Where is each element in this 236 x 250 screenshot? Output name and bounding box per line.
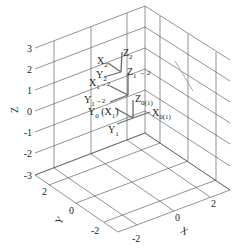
svg-text:0: 0: [27, 106, 32, 117]
svg-text:0: 0: [69, 205, 74, 216]
svg-text:-2: -2: [91, 225, 99, 236]
floor-grid: [35, 133, 230, 232]
x-axis-ticks: -2 0 2: [132, 198, 216, 244]
light-stroke: [175, 61, 193, 91]
svg-text:-2: -2: [132, 233, 140, 244]
svg-text:1: 1: [27, 85, 32, 96]
svg-text:0: 0: [175, 212, 180, 223]
svg-text:X2: X2: [97, 55, 108, 69]
svg-text:X0(1): X0(1): [152, 107, 172, 121]
svg-text:Z0(1): Z0(1): [135, 93, 153, 107]
svg-text:2: 2: [42, 186, 47, 197]
svg-text:Y1: Y1: [108, 124, 119, 138]
3d-plot: Z2 X2 Y2 Z1 → 2 X1→2 Y1→2 Z0(1) Y0 (X1) …: [0, 0, 236, 250]
svg-text:3: 3: [27, 43, 32, 54]
svg-text:2: 2: [211, 198, 216, 209]
svg-text:-1: -1: [24, 127, 32, 138]
svg-text:Z1 → 2: Z1 → 2: [127, 66, 151, 80]
svg-text:Z2: Z2: [123, 47, 133, 61]
svg-text:2: 2: [27, 64, 32, 75]
svg-text:Y0 (X1): Y0 (X1): [88, 106, 119, 120]
x-axis-label: X: [178, 224, 190, 238]
back-right-wall-grid: [145, 6, 230, 190]
y-axis-label: Y: [53, 214, 66, 226]
svg-text:-3: -3: [24, 170, 32, 181]
svg-text:-2: -2: [24, 148, 32, 159]
z-axis-label: Z: [9, 107, 20, 113]
z-axis-ticks: 3 2 1 0 -1 -2 -3: [24, 43, 32, 181]
